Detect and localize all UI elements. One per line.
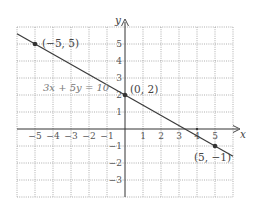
x-intercept-dot — [196, 128, 198, 130]
svg-text:−5: −5 — [28, 131, 42, 141]
point-0-2 — [123, 93, 128, 98]
coordinate-plane: x y −5 −4 −3 −2 −1 1 2 3 4 5 5 4 3 2 1 −… — [0, 0, 259, 215]
svg-text:3: 3 — [116, 73, 122, 83]
point-neg5-5 — [33, 42, 38, 47]
svg-text:−3: −3 — [109, 175, 123, 185]
svg-text:3: 3 — [176, 131, 182, 141]
equation-label: 3x + 5y = 10 — [43, 82, 110, 93]
svg-text:−2: −2 — [82, 131, 95, 141]
svg-text:−1: −1 — [109, 141, 122, 151]
svg-text:5: 5 — [212, 131, 218, 141]
x-axis-label: x — [240, 128, 246, 140]
point-5-neg1 — [213, 144, 218, 149]
point-label-0-2: (0, 2) — [130, 83, 158, 95]
point-label-5-neg1: (5, −1) — [194, 151, 231, 163]
svg-text:1: 1 — [116, 107, 122, 117]
svg-text:4: 4 — [116, 56, 122, 66]
y-axis-label: y — [114, 14, 122, 26]
svg-text:2: 2 — [158, 131, 164, 141]
x-tick-labels: −5 −4 −3 −2 −1 1 2 3 4 5 — [28, 131, 218, 141]
svg-text:−1: −1 — [100, 131, 113, 141]
svg-text:1: 1 — [140, 131, 146, 141]
svg-text:−3: −3 — [64, 131, 78, 141]
svg-text:−4: −4 — [46, 131, 60, 141]
svg-text:5: 5 — [116, 39, 122, 49]
svg-text:−2: −2 — [109, 158, 122, 168]
y-tick-labels: 5 4 3 2 1 −1 −2 −3 — [109, 39, 123, 185]
point-label-neg5-5: (−5, 5) — [42, 37, 79, 49]
